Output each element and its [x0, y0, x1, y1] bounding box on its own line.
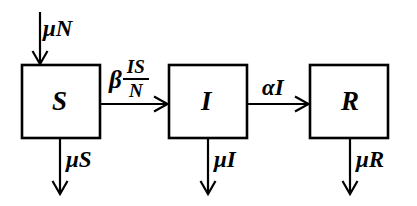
flow-label-infected-to-recovered: αI — [262, 76, 284, 99]
sir-model-diagram: S I R μN β IS N αI μS μI μR — [0, 0, 417, 206]
flow-label-fraction-denominator: N — [128, 81, 144, 101]
flow-label-beta-symbol: β — [109, 67, 123, 92]
flow-label-susceptible-to-infected: β IS N — [109, 57, 149, 101]
flow-label-fraction-numerator: IS — [126, 57, 146, 77]
flow-label-birth-into-susceptible: μN — [43, 17, 72, 40]
compartment-label-infected: I — [201, 88, 212, 115]
flow-label-death-from-recovered: μR — [356, 148, 384, 171]
compartment-label-susceptible: S — [52, 88, 68, 115]
compartment-label-recovered: R — [341, 88, 360, 115]
flow-label-death-from-susceptible: μS — [66, 148, 92, 171]
flow-label-fraction: IS N — [123, 57, 149, 101]
flow-label-death-from-infected: μI — [214, 148, 236, 171]
